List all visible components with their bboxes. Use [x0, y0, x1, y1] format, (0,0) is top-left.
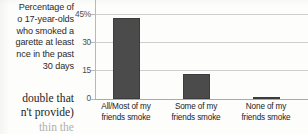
- bar-some-friends-smoke: [183, 74, 210, 99]
- x-axis-label-some: Some of my friends smoke: [157, 101, 235, 123]
- prose-line: thin the: [0, 121, 74, 134]
- figure-caption: Percentage of o 17-year-olds who smoked …: [0, 2, 74, 73]
- x-axis-label-line: friends smoke: [87, 112, 165, 123]
- x-axis-label-none: None of my friends smoke: [227, 101, 305, 123]
- caption-line: Percentage of: [0, 2, 74, 14]
- y-axis-tick-label: 15: [82, 65, 91, 75]
- scanned-page-excerpt: Percentage of o 17-year-olds who smoked …: [0, 0, 308, 134]
- caption-line: nce in the past: [0, 49, 74, 61]
- x-axis-label-all-most: All/Most of my friends smoke: [87, 101, 165, 123]
- x-axis-label-line: All/Most of my: [87, 101, 165, 112]
- x-axis-label-line: friends smoke: [227, 112, 305, 123]
- prose-line: n't provide): [0, 106, 74, 120]
- caption-line: garette at least: [0, 37, 74, 49]
- y-axis-tick-label: 45%: [75, 9, 91, 19]
- x-axis-label-line: Some of my: [157, 101, 235, 112]
- bar-series: [95, 0, 308, 99]
- y-axis-tick-label: 30: [82, 37, 91, 47]
- bar-all-most-friends-smoke: [113, 18, 140, 99]
- bar-chart: 45% 30 15 0 All/Most of my fr: [68, 0, 308, 134]
- caption-line: o 17-year-olds: [0, 14, 74, 26]
- caption-line: 30 days: [0, 61, 74, 73]
- prose-line: double that: [0, 92, 74, 106]
- x-axis-label-line: friends smoke: [157, 112, 235, 123]
- y-axis-labels: 45% 30 15 0: [68, 0, 95, 100]
- caption-line: who smoked a: [0, 26, 74, 38]
- body-prose: double that n't provide) thin the: [0, 92, 74, 134]
- x-axis-labels: All/Most of my friends smoke Some of my …: [95, 101, 308, 134]
- x-axis-label-line: None of my: [227, 101, 305, 112]
- plot-area: [95, 0, 308, 100]
